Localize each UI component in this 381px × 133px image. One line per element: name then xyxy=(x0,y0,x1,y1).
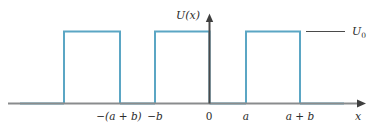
x-axis xyxy=(8,100,366,108)
tick-label-a-plus-b: a + b xyxy=(286,110,315,122)
barrier-right xyxy=(246,32,300,104)
barrier-left xyxy=(64,32,120,104)
y-axis xyxy=(206,14,213,104)
u0-label-subscript: 0 xyxy=(361,31,366,40)
barrier-center xyxy=(155,32,210,104)
tick-label-neg-b: −b xyxy=(147,110,163,122)
tick-label-neg-a-plus-b: −(a + b) xyxy=(96,110,141,122)
x-axis-label: x xyxy=(355,110,362,123)
tick-label-zero: 0 xyxy=(206,110,213,122)
x-tick-labels: −(a + b) −b 0 a a + b xyxy=(96,110,314,122)
potential-diagram-svg: U(x) x U0 −(a + b) −b 0 a a + b xyxy=(0,0,381,133)
y-axis-label: U(x) xyxy=(176,9,200,22)
tick-label-a: a xyxy=(243,110,249,122)
y-axis-arrowhead xyxy=(206,14,213,23)
potential-diagram-figure: U(x) x U0 −(a + b) −b 0 a a + b xyxy=(0,0,381,133)
u0-level-label: U0 xyxy=(352,25,366,40)
potential-barriers xyxy=(64,32,300,104)
x-axis-arrowhead xyxy=(357,100,366,108)
